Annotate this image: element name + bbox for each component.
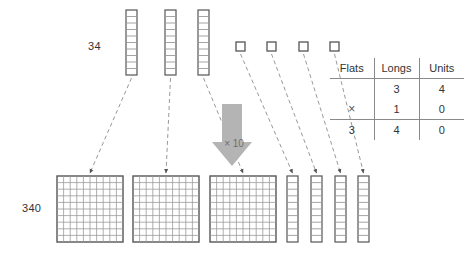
bottom-long: [358, 176, 369, 242]
place-value-table: Flats Longs Units 3 4 × 1 0 3 4: [330, 58, 464, 144]
place-value-diagram: 34 340 × 10 Flats Longs Units: [0, 0, 468, 260]
header-units: Units: [419, 58, 464, 79]
times-ten-arrow-label: × 10: [224, 138, 244, 149]
unit-to-long-connector: [272, 54, 317, 173]
table-row: × 1 0: [330, 99, 464, 120]
table-header-row: Flats Longs Units: [330, 58, 464, 79]
top-units-group: [236, 42, 339, 51]
bottom-long: [311, 176, 322, 242]
long-to-flat-connector: [166, 78, 171, 173]
top-long: [165, 10, 176, 75]
product-longs: 4: [374, 120, 419, 141]
bottom-flats-group: [57, 176, 276, 242]
multiplier-units: 0: [419, 99, 464, 120]
top-long: [126, 10, 137, 75]
header-longs: Longs: [374, 58, 419, 79]
bottom-flat: [210, 176, 276, 242]
top-unit: [330, 42, 339, 51]
bottom-flat: [57, 176, 123, 242]
bottom-longs-group: [287, 176, 369, 242]
long-to-flat-connector: [90, 78, 132, 173]
bottom-long: [287, 176, 298, 242]
factor-longs: 3: [374, 79, 419, 100]
factor-flats: [330, 79, 374, 100]
operator-symbol: ×: [330, 99, 374, 120]
top-unit: [267, 42, 276, 51]
multiplier-longs: 1: [374, 99, 419, 120]
table-row: 3 4 0: [330, 120, 464, 141]
header-flats: Flats: [330, 58, 374, 79]
table-row: 3 4: [330, 79, 464, 100]
factor-units: 4: [419, 79, 464, 100]
product-units: 0: [419, 120, 464, 141]
top-longs-group: [126, 10, 209, 75]
top-long: [198, 10, 209, 75]
product-flats: 3: [330, 120, 374, 141]
top-unit: [299, 42, 308, 51]
bottom-long: [335, 176, 346, 242]
unit-to-long-connector: [241, 54, 293, 173]
top-unit: [236, 42, 245, 51]
bottom-flat: [133, 176, 199, 242]
